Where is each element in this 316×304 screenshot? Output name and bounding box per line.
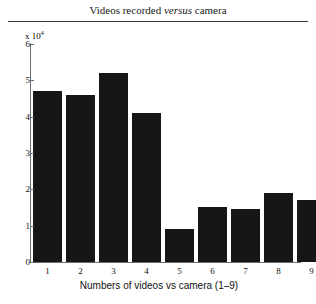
x-axis-tick-label: 1 — [33, 266, 62, 276]
figure-container: Videos recorded versus camera x 104 0123… — [0, 0, 316, 304]
x-axis-tick-label: 6 — [198, 266, 227, 276]
x-axis-tick-label: 3 — [99, 266, 128, 276]
y-axis-tick-mark — [31, 117, 34, 118]
x-axis-label: Numbers of videos vs camera (1–9) — [18, 280, 300, 292]
page-title: Videos recorded versus camera — [8, 4, 308, 17]
y-axis-tick-label: 1 — [8, 222, 30, 231]
y-axis-tick-mark — [31, 262, 34, 263]
title-prefix: Videos recorded — [89, 4, 163, 16]
x-axis-tick-label: 7 — [231, 266, 260, 276]
y-axis-tick-mark — [31, 153, 34, 154]
y-axis-multiplier-exponent: 4 — [41, 30, 44, 36]
bar-1 — [33, 91, 62, 262]
y-axis-tick-label: 5 — [8, 76, 30, 85]
bar-2 — [66, 95, 95, 262]
bar-8 — [264, 193, 293, 262]
title-emphasis: versus — [164, 4, 192, 16]
title-suffix: camera — [192, 4, 227, 16]
x-axis-tick-label: 5 — [165, 266, 194, 276]
y-axis-tick-label: 3 — [8, 149, 30, 158]
x-axis-tick-label: 2 — [66, 266, 95, 276]
bar-9 — [297, 200, 316, 262]
x-axis-tick-label: 9 — [297, 266, 316, 276]
title-divider — [8, 21, 308, 22]
bar-4 — [132, 113, 161, 262]
y-axis-tick-mark — [31, 80, 34, 81]
x-axis-line — [30, 262, 301, 263]
y-axis-tick-mark — [31, 44, 34, 45]
y-axis-tick-mark — [31, 189, 34, 190]
bar-6 — [198, 207, 227, 262]
chart-title-block: Videos recorded versus camera — [8, 4, 308, 17]
x-axis-tick-label: 8 — [264, 266, 293, 276]
bar-3 — [99, 73, 128, 262]
bars-layer — [33, 44, 301, 262]
x-axis-tick-label: 4 — [132, 266, 161, 276]
y-axis-tick-mark — [31, 226, 34, 227]
bar-7 — [231, 209, 260, 262]
bar-5 — [165, 229, 194, 262]
y-axis-tick-label: 4 — [8, 113, 30, 122]
y-axis-tick-label: 2 — [8, 185, 30, 194]
y-axis-ticks: 0123456 — [0, 0, 30, 304]
y-axis-tick-label: 0 — [8, 258, 30, 267]
y-axis-tick-label: 6 — [8, 40, 30, 49]
